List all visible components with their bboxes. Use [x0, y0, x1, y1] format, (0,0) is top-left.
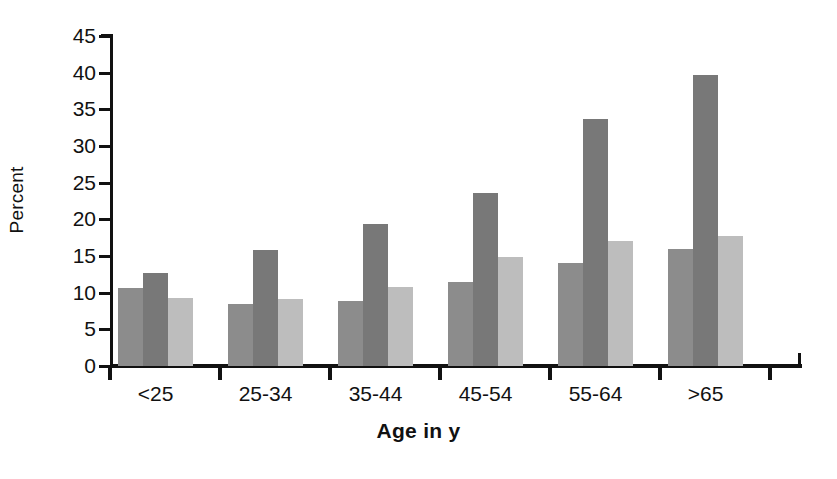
y-axis-tick-label: 40	[50, 62, 96, 83]
bar	[498, 257, 523, 366]
plot-area	[110, 36, 800, 366]
x-axis-tick	[218, 366, 222, 380]
x-axis-tick-label: 55-64	[536, 382, 656, 406]
x-axis-title: Age in y	[0, 419, 837, 443]
x-axis-tick	[438, 366, 442, 380]
bar	[718, 236, 743, 366]
x-axis-tick	[328, 366, 332, 380]
bar-chart: Percent 454035302520151050 <2525-3435-44…	[0, 0, 837, 479]
bar	[608, 241, 633, 366]
bar	[118, 288, 143, 366]
y-axis-tick-labels: 454035302520151050	[40, 0, 96, 479]
x-axis-tick	[658, 366, 662, 380]
y-axis-title: Percent	[6, 130, 28, 270]
bar	[583, 119, 608, 366]
y-axis-tick-label: 25	[50, 172, 96, 193]
y-axis-tick-label: 35	[50, 98, 96, 119]
x-axis-tick	[548, 366, 552, 380]
y-axis-tick-label: 30	[50, 135, 96, 156]
x-axis-tick	[768, 366, 772, 380]
y-axis-tick-label: 20	[50, 208, 96, 229]
x-axis-tick-label: >65	[646, 382, 766, 406]
y-axis-tick-label: 10	[50, 282, 96, 303]
x-axis-tick-label: 25-34	[206, 382, 326, 406]
bar	[363, 224, 388, 366]
bars-layer	[110, 36, 800, 366]
bar	[143, 273, 168, 366]
bar	[338, 301, 363, 366]
bar	[278, 299, 303, 366]
y-axis-tick-label: 0	[50, 355, 96, 376]
y-axis-tick-label: 5	[50, 318, 96, 339]
bar	[448, 282, 473, 366]
bar	[388, 287, 413, 366]
bar	[228, 304, 253, 366]
bar	[693, 75, 718, 366]
x-axis-tick-label: 45-54	[426, 382, 546, 406]
x-axis-tick-label: 35-44	[316, 382, 436, 406]
bar	[668, 249, 693, 366]
bar	[253, 250, 278, 366]
x-axis-tick	[108, 366, 112, 380]
bar	[558, 263, 583, 366]
x-axis-tick-label: <25	[96, 382, 216, 406]
y-axis-tick-label: 45	[50, 25, 96, 46]
bar	[168, 298, 193, 366]
bar	[473, 193, 498, 366]
y-axis-tick-label: 15	[50, 245, 96, 266]
